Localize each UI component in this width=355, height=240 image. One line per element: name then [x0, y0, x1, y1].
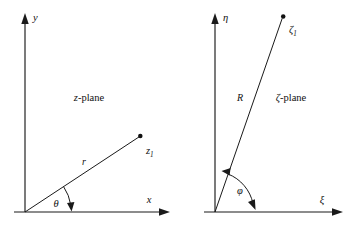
z-plane-title-label: z-plane	[73, 92, 105, 103]
panel-z-plane	[14, 13, 170, 216]
z-plane-x-axis-label: x	[146, 194, 152, 205]
z-plane-title-suffix: -plane	[78, 92, 105, 103]
zeta-plane-point-marker	[281, 14, 286, 19]
z-plane-point-label: z1	[145, 145, 154, 159]
zeta-plane-title-suffix: -plane	[280, 92, 307, 103]
z-plane-angle-arc	[64, 187, 71, 206]
z-plane-angle-arc-arrowhead	[67, 202, 74, 212]
z-plane-angle-label: θ	[53, 198, 58, 209]
zeta-plane-angle-arc-arrowhead-end	[248, 199, 256, 210]
zeta-plane-title-label: ζ-plane	[276, 92, 307, 104]
zeta-plane-xi-axis-arrowhead	[332, 208, 343, 215]
z-plane-radius-label: r	[82, 156, 86, 167]
zeta-plane-point-subscript: 1	[293, 30, 297, 38]
z-plane-y-axis-label: y	[32, 12, 38, 23]
zeta-plane-eta-axis-arrowhead	[211, 13, 218, 24]
z-plane-point-subscript: 1	[150, 151, 154, 159]
zeta-plane-angle-arc-arrowhead-start	[222, 168, 231, 175]
zeta-plane-point-label: ζ1	[289, 24, 297, 38]
complex-plane-diagram: y x z-plane r θ z1 η ξ ζ-plane R φ ζ1	[0, 0, 355, 240]
z-plane-radius-ray	[25, 137, 139, 212]
zeta-plane-radius-ray	[215, 18, 282, 212]
zeta-plane-angle-label: φ	[237, 185, 243, 196]
zeta-plane-radius-label: R	[236, 92, 243, 103]
z-plane-y-axis-arrowhead	[21, 13, 28, 24]
figure-canvas: y x z-plane r θ z1 η ξ ζ-plane R φ ζ1	[0, 0, 355, 240]
zeta-plane-xi-axis-label: ξ	[320, 194, 325, 206]
z-plane-x-axis-arrowhead	[159, 208, 170, 215]
panel-zeta-plane	[204, 13, 343, 216]
zeta-plane-eta-axis-label: η	[223, 12, 228, 23]
z-plane-point-marker	[138, 134, 143, 139]
